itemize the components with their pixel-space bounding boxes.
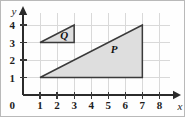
y-tick-label: 3 [10,37,16,49]
x-axis-arrow-icon [173,91,181,99]
coordinate-grid-figure: 1234567812340 PQ xy [0,0,185,117]
shape-label-q: Q [60,29,68,41]
plot-canvas: 1234567812340 PQ xy [1,1,185,117]
x-tick-label: 8 [157,99,163,111]
x-tick-label: 4 [88,99,94,111]
x-tick-label: 6 [123,99,129,111]
x-axis-label: x [177,100,183,112]
y-axis-label: y [11,5,17,17]
x-tick-label: 5 [106,99,112,111]
x-tick-label: 7 [140,99,146,111]
shape-label-p: P [111,43,118,55]
y-axis-arrow-icon [19,6,27,15]
x-tick-label: 3 [71,99,77,111]
origin-label: 0 [10,99,16,111]
y-tick-label: 2 [10,54,16,66]
x-tick-label: 2 [54,99,60,111]
y-tick-label: 4 [10,19,16,31]
x-tick-label: 1 [37,99,43,111]
y-tick-label: 1 [10,72,16,84]
